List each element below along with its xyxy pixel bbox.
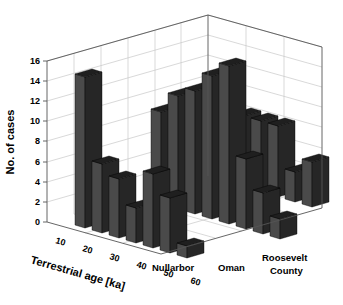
depth-label-county: County <box>270 265 303 276</box>
x-tick-10: 10 <box>54 235 66 247</box>
y-tick-0: 0 <box>35 217 40 227</box>
bar-row2-col9[interactable] <box>302 154 329 207</box>
y-axis-title: No. of cases <box>4 110 16 175</box>
x-tick-60: 60 <box>189 275 201 287</box>
chart-container: 0 2 4 6 8 10 12 14 16 No. of cases 10 20… <box>0 0 343 305</box>
depth-label-nullarbor: Nullarbor <box>152 262 195 273</box>
y-tick-2: 2 <box>35 197 40 207</box>
x-tick-20: 20 <box>81 243 93 255</box>
x-tick-40: 40 <box>135 259 147 271</box>
bar-row1-col8[interactable] <box>270 211 297 239</box>
3d-bar-chart: 0 2 4 6 8 10 12 14 16 No. of cases 10 20… <box>0 0 343 305</box>
y-tick-12: 12 <box>30 96 40 106</box>
y-tick-6: 6 <box>35 157 40 167</box>
y-tick-8: 8 <box>35 136 40 146</box>
y-axis-tick-labels: 0 2 4 6 8 10 12 14 16 <box>30 56 40 227</box>
y-tick-4: 4 <box>35 177 40 187</box>
y-axis-ticks <box>43 61 47 222</box>
depth-label-oman: Oman <box>218 262 245 273</box>
y-tick-10: 10 <box>30 116 40 126</box>
y-tick-14: 14 <box>30 76 40 86</box>
depth-category-labels: Nullarbor Oman Roosevelt County <box>152 252 308 276</box>
y-tick-16: 16 <box>30 56 40 66</box>
x-tick-30: 30 <box>108 251 120 263</box>
depth-label-roosevelt: Roosevelt <box>262 252 308 263</box>
